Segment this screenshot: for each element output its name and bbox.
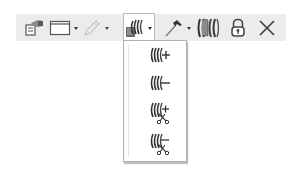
slices-add-icon [137,46,173,68]
slices-add-cut-icon [137,101,173,129]
close-button[interactable]: Close [257,14,277,41]
properties-button[interactable]: Properties [25,14,45,41]
slices-icon [125,18,145,38]
close-icon [257,18,277,38]
chevron-down-icon[interactable] [105,27,109,30]
surface-stack-icon [196,17,220,39]
pencil-icon [82,18,102,38]
chevron-down-icon[interactable] [148,27,152,30]
surface-button[interactable]: Surface [196,14,220,41]
slices-remove-icon [137,74,173,96]
chevron-down-icon[interactable] [187,27,191,30]
lock-icon [230,18,246,38]
hammer-icon [164,18,184,38]
chevron-down-icon[interactable] [74,27,78,30]
toolbar: Properties Window Edit [16,14,286,41]
properties-icon [25,19,45,37]
menu-item-remove-cut-slice[interactable]: Remove cut slice [126,131,184,161]
hammer-button[interactable]: Build [164,14,191,41]
slices-remove-cut-icon [137,132,173,160]
window-frame-icon [49,19,71,37]
slices-button[interactable]: Slices [125,14,152,41]
menu-item-remove-slice[interactable]: Remove slice [126,72,184,98]
slices-dropdown-menu: Add slice Remove slice [123,40,187,162]
lock-button[interactable]: Lock [230,14,246,41]
window-button[interactable]: Window [49,14,78,41]
menu-item-add-cut-slice[interactable]: Add cut slice [126,100,184,130]
pencil-button[interactable]: Edit [82,14,109,41]
menu-item-add-slice[interactable]: Add slice [126,44,184,70]
